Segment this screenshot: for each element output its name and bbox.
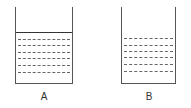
container-b (121, 7, 176, 84)
liquid-dashed-line (124, 45, 173, 46)
liquid-surface-line (16, 32, 72, 33)
liquid-dashed-line (18, 72, 70, 73)
liquid-dashed-line (124, 57, 173, 58)
liquid-dashed-line (124, 51, 173, 52)
container-b-label: B (146, 91, 153, 102)
container-a-label: A (41, 91, 48, 102)
liquid-dashed-line (18, 58, 70, 59)
liquid-dashed-line (18, 52, 70, 53)
liquid-dashed-line (124, 64, 173, 65)
liquid-dashed-line (18, 65, 70, 66)
liquid-dashed-line (18, 45, 70, 46)
liquid-dashed-line (124, 38, 173, 39)
liquid-dashed-line (18, 39, 70, 40)
liquid-dashed-line (124, 71, 173, 72)
container-a (15, 7, 73, 84)
